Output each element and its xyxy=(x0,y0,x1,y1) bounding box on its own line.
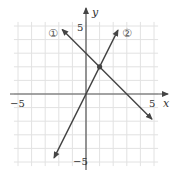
x-tick-5: 5 xyxy=(149,98,155,109)
y-tick-5: 5 xyxy=(77,22,83,33)
series-label-2: ② xyxy=(122,27,132,40)
y-axis-label: y xyxy=(91,6,99,19)
x-axis-label: x xyxy=(163,97,170,110)
x-tick-neg5: −5 xyxy=(10,98,25,109)
y-tick-neg5: −5 xyxy=(73,156,88,167)
intersection-point xyxy=(97,64,102,69)
series-line-1 xyxy=(62,29,152,119)
graph: −5 5 5 −5 x y ① ② xyxy=(0,0,180,176)
series-label-1: ① xyxy=(48,27,58,40)
